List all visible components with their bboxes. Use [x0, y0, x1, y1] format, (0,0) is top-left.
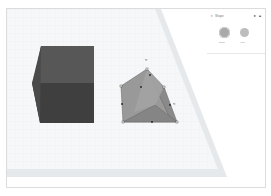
- hole-label: Hole: [240, 41, 245, 44]
- chevron-icon[interactable]: ▾: [211, 14, 213, 18]
- rotate-handle-top[interactable]: ↻: [145, 58, 148, 62]
- editor-viewport[interactable]: ↻ ↻ ▾ Shape ● 🔒︎ Solid Hole: [6, 8, 266, 188]
- box-shape[interactable]: [32, 46, 94, 123]
- solid-label: Solid: [219, 41, 225, 44]
- inspector-title: Shape: [215, 14, 224, 18]
- inspector-header[interactable]: ▾ Shape: [211, 14, 224, 18]
- lightbulb-icon[interactable]: ●: [254, 13, 256, 18]
- shape-inspector: ▾ Shape ● 🔒︎ Solid Hole: [207, 9, 265, 54]
- lock-icon[interactable]: 🔒︎: [259, 13, 261, 18]
- rotate-handle-side[interactable]: ↻: [173, 102, 176, 106]
- hole-option[interactable]: [240, 28, 249, 37]
- solid-option[interactable]: [219, 27, 230, 38]
